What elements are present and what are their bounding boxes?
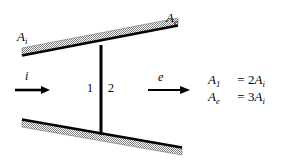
equation-rhs: 2Ai [248,72,265,89]
equation-lhs: Ae [208,89,234,106]
label-flow-out: e [158,71,163,83]
equation-lhs-base: A [208,72,216,87]
exit-arrow-head [180,86,190,94]
equation-lhs-sub: e [216,96,220,106]
label-area-inlet-base: A [17,29,25,44]
equation-operator: = [234,89,248,105]
equation-rhs: 3Ai [248,89,265,106]
exit-flow-arrow [148,86,190,94]
equation-lhs-base: A [208,89,216,104]
label-area-inlet-sub: i [25,36,27,46]
duct-diagram-figure: Ai Ae i e 1 2 A1 = 2Ai Ae = 3Ai [0,0,285,165]
label-area-exit: Ae [166,11,178,27]
label-area-exit-sub: e [174,17,178,27]
label-area-inlet: Ai [17,30,27,46]
equation-lhs-sub: 1 [216,79,220,89]
equation-operator: = [234,72,248,88]
inlet-flow-arrow [15,86,50,94]
equation-row: A1 = 2Ai [208,72,265,89]
equation-rhs-sub: i [262,79,264,89]
equation-rhs-sub: i [262,96,264,106]
equation-lhs: A1 [208,72,234,89]
label-station-2: 2 [108,82,114,94]
equation-row: Ae = 3Ai [208,89,265,106]
label-area-exit-base: A [166,10,174,25]
equation-block: A1 = 2Ai Ae = 3Ai [208,72,265,106]
label-station-1: 1 [87,82,93,94]
label-flow-in: i [25,70,28,82]
inlet-arrow-head [41,86,50,94]
